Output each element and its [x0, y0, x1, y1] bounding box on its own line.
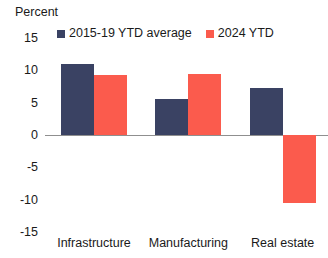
y-axis: 151050-5-10-15	[0, 0, 45, 258]
y-axis-tick-label: -15	[20, 226, 38, 238]
bar-1-3	[250, 88, 283, 135]
bar-group	[61, 38, 127, 232]
bar-1-1	[61, 64, 94, 135]
x-axis: InfrastructureManufacturingReal estate	[45, 236, 328, 258]
bar-2-3	[283, 135, 316, 203]
bar-group	[250, 38, 316, 232]
legend-swatch-icon-series-2	[206, 30, 214, 38]
legend-swatch-icon-series-1	[57, 30, 65, 38]
y-axis-tick-label: 5	[31, 97, 38, 109]
y-axis-tick-label: 15	[24, 32, 38, 44]
bar-1-2	[155, 99, 188, 135]
y-axis-tick-label: -10	[20, 194, 38, 206]
x-axis-tick-label: Manufacturing	[149, 236, 228, 251]
plot-area	[45, 38, 328, 232]
y-axis-tick-label: -5	[27, 161, 38, 173]
y-axis-tick-label: 0	[31, 129, 38, 141]
x-axis-tick-label: Real estate	[251, 236, 314, 251]
bar-chart: Percent 2015-19 YTD average 2024 YTD 151…	[0, 0, 328, 258]
bar-group	[155, 38, 221, 232]
bar-2-1	[94, 75, 127, 135]
y-axis-tick-label: 10	[24, 64, 38, 76]
bar-2-2	[188, 74, 221, 135]
x-axis-tick-label: Infrastructure	[57, 236, 131, 251]
